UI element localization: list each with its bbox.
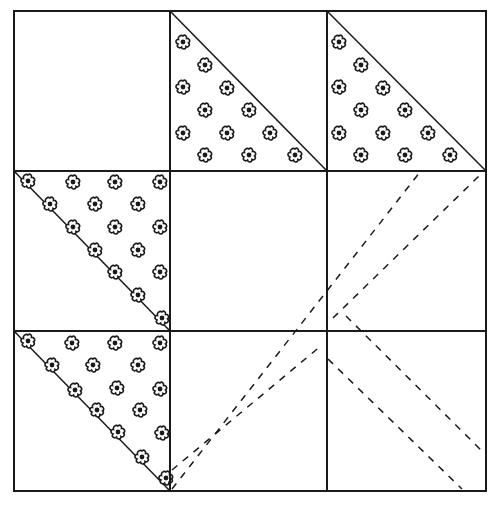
quilt-block-diagram: [0, 0, 495, 517]
dashed-guide-4: [346, 316, 485, 454]
block-grid: [14, 11, 486, 491]
flower-print: [176, 35, 302, 162]
cell-r2-c0-triangle: [14, 331, 173, 491]
flower-print: [21, 334, 173, 485]
cell-r0-c2-triangle: [327, 11, 486, 171]
flower-print: [21, 174, 169, 325]
cell-r1-c0-triangle: [14, 171, 170, 331]
dashed-guide-5: [328, 359, 462, 489]
dashed-guide-2: [172, 345, 322, 470]
flower-print: [332, 35, 457, 162]
cell-r0-c1-triangle: [170, 11, 327, 171]
dashed-guide-3: [333, 175, 480, 318]
block-outline: [14, 11, 486, 491]
